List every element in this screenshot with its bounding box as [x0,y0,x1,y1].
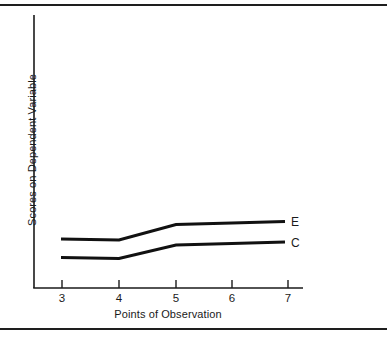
series-line-c [61,242,285,259]
x-axis-label: Points of Observation [33,308,303,320]
series-label-e: E [291,215,299,229]
series-line-e [61,222,285,241]
y-axis-label: Scores on Dependent Variable [26,55,38,245]
x-tick-label-7: 7 [278,292,298,304]
x-tick-label-4: 4 [109,292,129,304]
x-tick-label-3: 3 [52,292,72,304]
x-tick-label-5: 5 [166,292,186,304]
figure-container: Scores on Dependent Variable Points of O… [0,0,387,343]
series-label-c: C [291,236,300,250]
x-tick-label-6: 6 [222,292,242,304]
